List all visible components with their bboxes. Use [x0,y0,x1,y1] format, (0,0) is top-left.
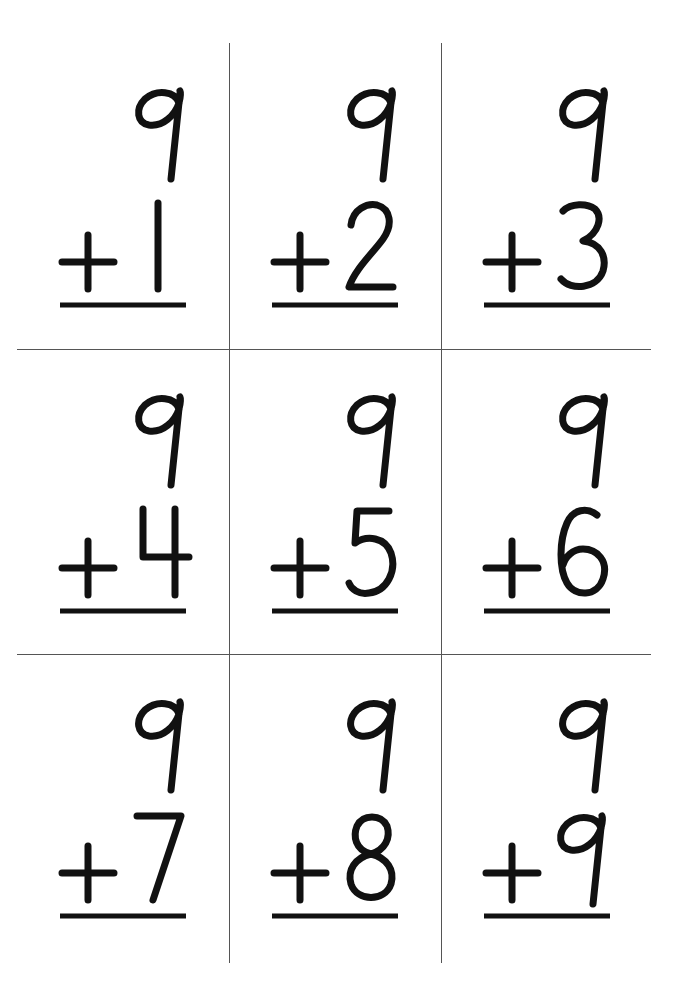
top-digit-glyph [139,702,181,790]
bottom-digit-glyph [350,817,392,898]
card-glyphs [229,43,441,348]
plus-icon [274,541,326,595]
plus-icon [486,235,538,289]
flash-card-9-plus-1: 9 + 1 [17,43,229,348]
plus-icon [274,235,326,289]
flash-card-9-plus-7: 9 + 7 [17,654,229,959]
flash-card-9-plus-8: 9 + 8 [229,654,441,959]
top-digit-glyph [351,91,393,179]
top-digit-glyph [563,397,605,485]
flash-card-9-plus-5: 9 + 5 [229,349,441,654]
card-glyphs [441,654,653,959]
top-digit-glyph [351,702,393,790]
bottom-digit-glyph [143,509,189,595]
plus-icon [274,846,326,900]
flash-card-sheet: 9 + 1 9 + 2 9 + 3 9 + 4 9 + 5 9 + 6 9 + … [0,0,691,993]
card-glyphs [229,349,441,654]
top-digit-glyph [139,91,181,179]
top-digit-glyph [563,702,605,790]
bottom-digit-glyph [561,510,605,593]
flash-card-9-plus-9: 9 + 9 [441,654,653,959]
plus-icon [486,541,538,595]
card-glyphs [17,654,229,959]
bottom-digit-glyph [137,816,181,900]
top-digit-glyph [563,91,605,179]
flash-card-9-plus-6: 9 + 6 [441,349,653,654]
card-glyphs [441,349,653,654]
card-glyphs [229,654,441,959]
plus-icon [62,846,114,900]
card-glyphs [17,349,229,654]
flash-card-9-plus-4: 9 + 4 [17,349,229,654]
bottom-digit-glyph [561,816,603,904]
flash-card-9-plus-2: 9 + 2 [229,43,441,348]
bottom-digit-glyph [561,205,604,287]
card-glyphs [17,43,229,348]
bottom-digit-glyph [349,511,393,593]
plus-icon [486,846,538,900]
card-glyphs [441,43,653,348]
plus-icon [62,541,114,595]
top-digit-glyph [139,397,181,485]
flash-card-9-plus-3: 9 + 3 [441,43,653,348]
top-digit-glyph [351,397,393,485]
plus-icon [62,235,114,289]
bottom-digit-glyph [349,205,393,287]
